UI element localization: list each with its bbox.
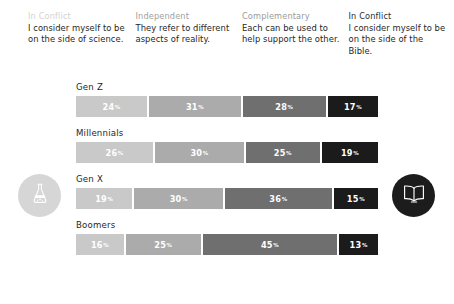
segment-value: 30 [190, 148, 202, 158]
bar-segment: 45% [203, 234, 338, 255]
segment-value: 13 [350, 240, 362, 250]
row-label-boomers: Boomers [76, 220, 378, 231]
row-label-millennials: Millennials [76, 128, 378, 139]
open-book-icon [402, 183, 426, 208]
bible-emblem [392, 174, 435, 217]
row-label-gen-x: Gen X [76, 174, 378, 185]
bar-segment: 30% [155, 142, 244, 163]
category-description: I consider myself to be on the side of s… [28, 23, 126, 46]
segment-value: 16 [91, 240, 103, 250]
category-header-row: In Conflict I consider myself to be on t… [0, 11, 454, 77]
bar-segment: 24% [76, 96, 147, 117]
category-title: Independent [136, 11, 234, 22]
segment-value: 25 [274, 148, 286, 158]
bar-segment: 19% [76, 188, 132, 209]
bar-segment: 36% [225, 188, 332, 209]
segment-value: 30 [170, 194, 182, 204]
segment-value: 19 [95, 194, 107, 204]
category-title: In Conflict [28, 11, 126, 22]
chart-row: Millennials 26% 30% 25% 19% [76, 128, 378, 163]
bar-boomers: 16% 25% 45% 13% [76, 234, 378, 255]
segment-value: 25 [154, 240, 166, 250]
category-description: Each can be used to help support the oth… [242, 23, 340, 46]
category-header-complementary: Complementary Each can be used to help s… [242, 11, 348, 77]
bar-millennials: 26% 30% 25% 19% [76, 142, 378, 163]
flask-icon [30, 182, 50, 210]
segment-value: 26 [106, 148, 118, 158]
bar-segment: 30% [134, 188, 223, 209]
segment-value: 45 [261, 240, 273, 250]
category-header-in-conflict-science: In Conflict I consider myself to be on t… [28, 11, 134, 77]
category-header-in-conflict-bible: In Conflict I consider myself to be on t… [349, 11, 454, 77]
bar-segment: 31% [149, 96, 241, 117]
infographic-page: { "headers": [ { "title": "In Conflict",… [0, 0, 454, 304]
chart-row: Gen X 19% 30% 36% 15% [76, 174, 378, 209]
segment-value: 15 [347, 194, 359, 204]
segment-value: 24 [103, 102, 115, 112]
segment-value: 36 [269, 194, 281, 204]
chart-row: Boomers 16% 25% 45% 13% [76, 220, 378, 255]
bar-gen-x: 19% 30% 36% 15% [76, 188, 378, 209]
bar-segment: 28% [243, 96, 326, 117]
bar-segment: 15% [334, 188, 378, 209]
bar-segment: 16% [76, 234, 124, 255]
category-description: They refer to different aspects of reali… [136, 23, 234, 46]
bar-segment: 26% [76, 142, 153, 163]
category-title: Complementary [242, 11, 340, 22]
segment-value: 31 [186, 102, 198, 112]
bar-gen-z: 24% 31% 28% 17% [76, 96, 378, 117]
chart-row: Gen Z 24% 31% 28% 17% [76, 82, 378, 117]
bar-segment: 13% [339, 234, 378, 255]
bar-segment: 19% [322, 142, 378, 163]
segment-value: 28 [275, 102, 287, 112]
bar-segment: 25% [246, 142, 320, 163]
row-label-gen-z: Gen Z [76, 82, 378, 93]
stacked-bar-chart: Gen Z 24% 31% 28% 17% Millennials 26% 30… [76, 82, 378, 255]
category-description: I consider myself to be on the side of t… [349, 23, 447, 57]
category-header-independent: Independent They refer to different aspe… [136, 11, 242, 77]
bar-segment: 17% [328, 96, 378, 117]
segment-value: 19 [341, 148, 353, 158]
category-title: In Conflict [349, 11, 447, 22]
science-emblem [18, 174, 61, 217]
segment-value: 17 [344, 102, 356, 112]
bar-segment: 25% [126, 234, 201, 255]
